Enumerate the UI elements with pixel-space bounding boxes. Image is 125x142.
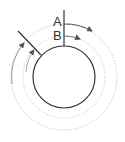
rotation-diagram: A B [0,0,125,142]
label-b: B [53,28,62,43]
label-a: A [53,14,62,29]
arrow-diagonal-outer [12,43,24,84]
arrow-b [64,36,80,39]
diagonal-radial-line [18,31,41,55]
main-circle [33,46,95,108]
